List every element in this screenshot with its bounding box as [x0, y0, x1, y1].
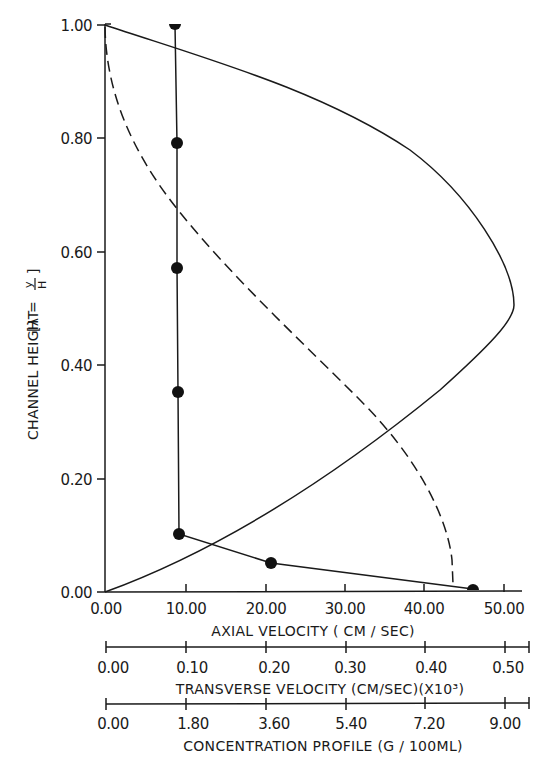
svg-text:[λ =: [λ =	[25, 301, 41, 332]
svg-text:5.40: 5.40	[335, 715, 366, 733]
svg-text:3.60: 3.60	[258, 715, 289, 733]
svg-text:30.00: 30.00	[325, 600, 365, 618]
x-tick-labels-concentration: 0.00 1.80 3.60 5.40 7.20 9.00	[97, 715, 520, 733]
marker-point	[171, 137, 183, 149]
svg-text:0.00: 0.00	[90, 600, 121, 618]
marker-point	[467, 584, 479, 590]
svg-text:10.00: 10.00	[166, 600, 206, 618]
svg-text:1.00: 1.00	[61, 17, 92, 35]
x-axis-axial	[105, 591, 522, 592]
x-axis-title-transverse: TRANSVERSE VELOCITY (CM/SEC)(X10³)	[175, 681, 464, 697]
x-axis-concentration	[106, 697, 529, 710]
svg-text:1.80: 1.80	[177, 715, 208, 733]
marker-point	[171, 262, 183, 274]
svg-text:0.80: 0.80	[61, 130, 92, 148]
svg-text:0.00: 0.00	[61, 584, 92, 602]
x-tick-labels-transverse: 0.00 0.10 0.20 0.30 0.40 0.50	[97, 659, 523, 677]
chart: 0.00 0.20 0.40 0.60 0.80 1.00 CHANNEL HE…	[0, 0, 554, 772]
svg-text:0.40: 0.40	[61, 357, 92, 375]
y-ticks	[97, 25, 105, 592]
svg-text:y: y	[22, 281, 35, 288]
x-tick-labels-axial: 0.00 10.00 20.00 30.00 40.00 50.00	[90, 600, 524, 618]
marker-point	[265, 557, 277, 569]
series-concentration-line	[175, 25, 473, 589]
x-axis-transverse	[106, 641, 529, 653]
svg-text:0.20: 0.20	[258, 659, 289, 677]
series-transverse-velocity	[105, 27, 453, 584]
svg-text:7.20: 7.20	[413, 715, 444, 733]
marker-point	[169, 24, 181, 30]
svg-text:9.00: 9.00	[489, 715, 520, 733]
series-axial-velocity	[105, 25, 514, 592]
y-tick-labels: 0.00 0.20 0.40 0.60 0.80 1.00	[61, 17, 92, 602]
x-axis-title-axial: AXIAL VELOCITY ( CM / SEC)	[211, 623, 414, 639]
svg-text:]: ]	[25, 268, 41, 274]
svg-text:40.00: 40.00	[404, 600, 444, 618]
y-axis-title: CHANNEL HEIGHT [λ = y H ]	[22, 268, 49, 440]
svg-text:0.50: 0.50	[492, 659, 523, 677]
svg-text:20.00: 20.00	[246, 600, 286, 618]
svg-text:0.10: 0.10	[176, 659, 207, 677]
series-concentration-markers	[169, 24, 479, 590]
svg-text:H: H	[36, 280, 49, 289]
marker-point	[173, 528, 185, 540]
marker-point	[172, 386, 184, 398]
svg-text:50.00: 50.00	[484, 600, 524, 618]
svg-text:0.00: 0.00	[97, 715, 128, 733]
svg-text:0.30: 0.30	[334, 659, 365, 677]
svg-text:0.20: 0.20	[61, 471, 92, 489]
x-axis-title-concentration: CONCENTRATION PROFILE (G / 100ML)	[183, 738, 463, 754]
svg-text:0.40: 0.40	[415, 659, 446, 677]
svg-text:0.00: 0.00	[97, 659, 128, 677]
svg-text:0.60: 0.60	[61, 244, 92, 262]
